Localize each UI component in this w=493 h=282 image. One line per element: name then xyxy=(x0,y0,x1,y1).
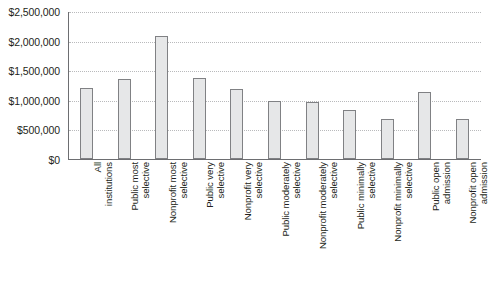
bar xyxy=(118,79,131,159)
y-axis-tick-label: $500,000 xyxy=(0,124,64,136)
x-axis-line xyxy=(68,159,481,160)
x-axis-tick-label: Nonprofit open admission xyxy=(467,162,481,274)
gridline xyxy=(69,12,481,13)
x-axis-tick-label: Public most selective xyxy=(129,162,143,274)
plot-area xyxy=(68,12,481,160)
x-axis-tick-label: Public very selective xyxy=(204,162,218,274)
y-axis-tick-label: $2,000,000 xyxy=(0,36,64,48)
bar xyxy=(456,119,469,159)
bar xyxy=(306,102,319,159)
x-axis: All institutionsPublic most selectiveNon… xyxy=(68,162,481,280)
bar xyxy=(193,78,206,159)
x-axis-tick-label: Nonprofit minimally selective xyxy=(392,162,406,274)
y-axis-tick-label: $1,000,000 xyxy=(0,95,64,107)
y-axis-line xyxy=(68,12,69,160)
y-axis-tick-label: $0 xyxy=(0,154,64,166)
x-axis-tick-label: Public moderately selective xyxy=(280,162,294,274)
x-axis-tick-label: Public open admission xyxy=(430,162,444,274)
y-axis-tick-label: $2,500,000 xyxy=(0,6,64,18)
x-axis-tick-label: Nonprofit most selective xyxy=(167,162,181,274)
y-axis: $2,500,000$2,000,000$1,500,000$1,000,000… xyxy=(0,0,64,282)
x-axis-tick-label: Public minimally selective xyxy=(355,162,369,274)
x-axis-tick-label: Nonprofit moderately selective xyxy=(317,162,331,274)
bar xyxy=(80,88,93,159)
bar xyxy=(343,110,356,159)
bar xyxy=(381,119,394,159)
y-axis-tick-label: $1,500,000 xyxy=(0,65,64,77)
x-axis-tick-label: All institutions xyxy=(92,162,106,274)
bar xyxy=(268,101,281,159)
bar xyxy=(230,89,243,159)
bar xyxy=(418,92,431,159)
x-axis-tick-label: Nonprofit very selective xyxy=(242,162,256,274)
gridline xyxy=(69,71,481,72)
gridline xyxy=(69,42,481,43)
bar xyxy=(155,36,168,159)
bar-chart: $2,500,000$2,000,000$1,500,000$1,000,000… xyxy=(0,0,493,282)
